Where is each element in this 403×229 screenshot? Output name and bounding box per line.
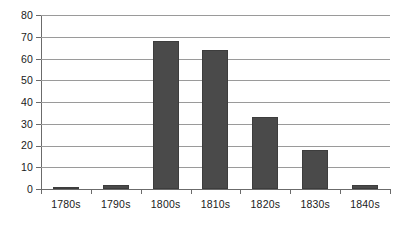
- y-tick-label-30: 30: [7, 119, 33, 129]
- bar-slot-1830s: [290, 15, 340, 189]
- y-tick-label-60: 60: [7, 54, 33, 64]
- x-tick-mark-1: [91, 189, 92, 194]
- bar-slot-1800s: [141, 15, 191, 189]
- y-tick-label-20: 20: [7, 140, 33, 150]
- x-tick-mark-4: [240, 189, 241, 194]
- y-tick-label-0: 0: [7, 184, 33, 194]
- x-tick-label-1840s: 1840s: [340, 198, 390, 210]
- y-tick-label-70: 70: [7, 32, 33, 42]
- x-tick-label-1830s: 1830s: [290, 198, 340, 210]
- plot-area: [41, 15, 390, 189]
- x-tick-label-1780s: 1780s: [41, 198, 91, 210]
- x-tick-mark-5: [290, 189, 291, 194]
- x-tick-label-1820s: 1820s: [240, 198, 290, 210]
- y-tick-label-40: 40: [7, 97, 33, 107]
- x-axis-line: [41, 189, 391, 190]
- bar-slot-1840s: [340, 15, 390, 189]
- x-tick-mark-2: [141, 189, 142, 194]
- bar-slot-1810s: [191, 15, 241, 189]
- x-tick-mark-3: [191, 189, 192, 194]
- bar-1830s: [302, 150, 328, 189]
- bar-chart-figure: 80 70 60 50 40 30 20 10 0: [0, 0, 403, 229]
- x-tick-label-1810s: 1810s: [191, 198, 241, 210]
- bar-slot-1780s: [41, 15, 91, 189]
- bar-1820s: [252, 117, 278, 189]
- y-tick-label-10: 10: [7, 162, 33, 172]
- x-tick-mark-6: [340, 189, 341, 194]
- x-tick-mark-7: [390, 189, 391, 194]
- bar-1800s: [153, 41, 179, 189]
- y-tick-label-80: 80: [7, 10, 33, 20]
- x-tick-label-1800s: 1800s: [141, 198, 191, 210]
- bar-slot-1820s: [240, 15, 290, 189]
- y-axis-tick-labels: 80 70 60 50 40 30 20 10 0: [5, 0, 33, 229]
- x-axis-tick-labels: 1780s 1790s 1800s 1810s 1820s 1830s 1840…: [41, 198, 390, 214]
- bar-slot-1790s: [91, 15, 141, 189]
- y-tick-label-50: 50: [7, 75, 33, 85]
- x-tick-mark-0: [41, 189, 42, 194]
- x-tick-label-1790s: 1790s: [91, 198, 141, 210]
- bar-1810s: [202, 50, 228, 189]
